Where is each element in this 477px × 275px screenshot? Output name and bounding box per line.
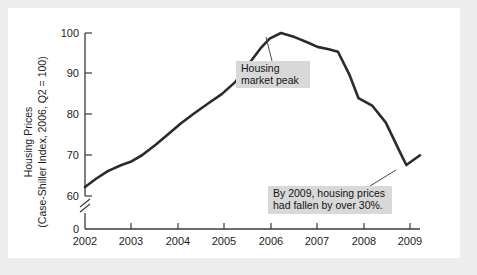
y-tick-label-100: 100	[61, 27, 79, 39]
annotation-decline-line2: had fallen by over 30%.	[273, 199, 383, 211]
x-tick-label-2006: 2006	[259, 235, 283, 247]
y-tick-label-80: 80	[67, 108, 79, 120]
x-tick-label-2004: 2004	[166, 235, 190, 247]
housing-prices-line-chart: 100 90 80 70 60 0 Housing Prices (Case-S…	[0, 0, 477, 275]
y-tick-label-90: 90	[67, 67, 79, 79]
y-tick-label-0: 0	[73, 223, 79, 235]
y-axis-break-icon	[80, 199, 90, 212]
y-axis-subtitle: (Case-Shiller Index, 2006, Q2 = 100)	[36, 56, 48, 227]
y-tick-label-70: 70	[67, 149, 79, 161]
x-tick-label-2003: 2003	[119, 235, 143, 247]
x-tick-label-2008: 2008	[352, 235, 376, 247]
figure-frame: 100 90 80 70 60 0 Housing Prices (Case-S…	[0, 0, 477, 275]
x-tick-label-2005: 2005	[212, 235, 236, 247]
x-tick-label-2009: 2009	[398, 235, 422, 247]
housing-price-line	[85, 33, 420, 187]
x-tick-label-2007: 2007	[305, 235, 329, 247]
x-tick-label-2002: 2002	[73, 235, 97, 247]
x-axis: 2002 2003 2004 2005 2006 2007 2008 2009	[73, 223, 422, 247]
leader-line-decline	[370, 170, 396, 186]
annotation-decline-line1: By 2009, housing prices	[273, 187, 385, 199]
annotation-price-decline: By 2009, housing prices had fallen by ov…	[268, 170, 396, 214]
y-axis-title: Housing Prices	[22, 107, 34, 178]
annotation-housing-market-peak: Housing market peak	[236, 37, 310, 88]
y-axis: 100 90 80 70 60 0	[61, 27, 92, 235]
annotation-peak-line2: market peak	[241, 74, 300, 86]
annotation-peak-line1: Housing	[241, 62, 280, 74]
y-tick-label-60: 60	[67, 190, 79, 202]
